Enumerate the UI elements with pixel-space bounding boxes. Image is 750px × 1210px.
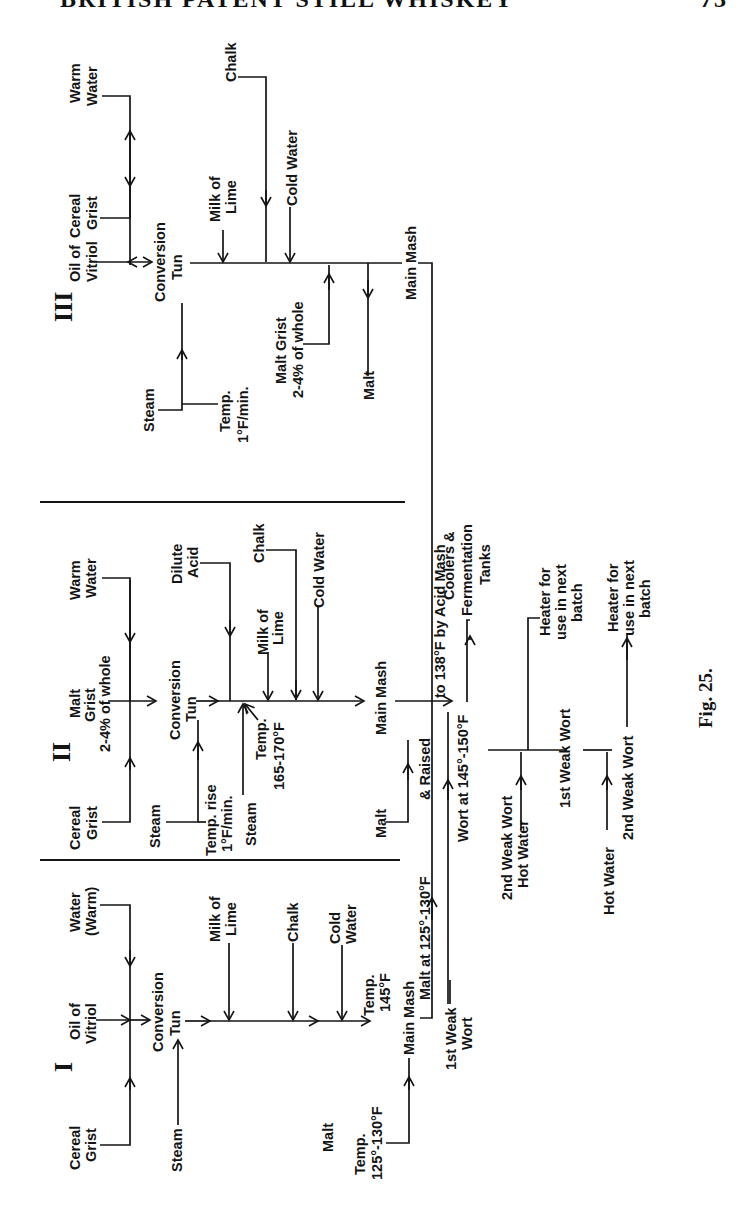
label-oil-of-vitriol: Oil of: [67, 245, 83, 282]
svg-text:Tun: Tun: [183, 697, 199, 723]
svg-text:Tun: Tun: [167, 1011, 183, 1037]
svg-text:Tun: Tun: [169, 255, 185, 281]
label-milk-of-lime: Milk of: [207, 176, 223, 222]
label-warm-water: Warm: [67, 560, 83, 600]
label-malt-grist: Malt: [67, 689, 83, 718]
process-flow-diagram: III Cereal Grist Oil of Vitriol Warm Wat…: [0, 0, 750, 1210]
svg-text:Grist: Grist: [82, 688, 98, 722]
svg-text:Vitriol: Vitriol: [83, 1003, 99, 1044]
label-oil-of-vitriol: Oil of: [67, 1003, 83, 1040]
section-ii: II Cereal Grist Malt Grist 2-4% of whole…: [47, 523, 452, 1004]
svg-text:Fermentation: Fermentation: [459, 524, 475, 616]
cereal-grist-line: [100, 130, 130, 218]
label-hot-water: Hot Water: [601, 847, 617, 915]
steam-line: [158, 303, 182, 410]
label-malt-temp: Temp.: [352, 1133, 368, 1175]
label-second-weak-wort-hot-water: 2nd Weak Wort: [499, 796, 515, 900]
label-temp-165-170: Temp.: [253, 718, 269, 760]
svg-text:Tanks: Tanks: [477, 544, 493, 585]
label-main-mash: Main Mash: [401, 981, 417, 1055]
label-conversion-tun: Conversion: [167, 660, 183, 740]
svg-text:2-4% of whole: 2-4% of whole: [97, 655, 113, 752]
label-warm-water: Warm: [67, 63, 83, 103]
svg-text:1°F/min.: 1°F/min.: [219, 795, 235, 852]
label-cereal-grist: Cereal: [67, 806, 83, 850]
svg-text:Hot Water: Hot Water: [515, 820, 531, 888]
malt-in-line: [386, 1058, 409, 1143]
label-coolers: Coolers &: [441, 531, 457, 600]
svg-text:Lime: Lime: [223, 180, 239, 214]
label-milk-of-lime: Milk of: [255, 609, 271, 655]
label-second-weak-wort: 2nd Weak Wort: [620, 736, 636, 840]
label-dilute-acid: Dilute: [169, 544, 185, 584]
svg-text:(Warm): (Warm): [83, 886, 99, 936]
label-steam: Steam: [169, 1128, 185, 1172]
label-malt: Malt: [373, 809, 389, 838]
label-chalk: Chalk: [251, 523, 267, 563]
label-main-mash: Main Mash: [403, 226, 419, 300]
svg-text:Grist: Grist: [84, 806, 100, 840]
svg-text:Lime: Lime: [223, 902, 239, 936]
label-cereal-grist: Cereal: [67, 194, 83, 238]
label-steam-2: Steam: [243, 802, 259, 846]
label-and-raised: & Raised: [417, 738, 433, 800]
label-malt: Malt: [320, 1123, 336, 1152]
svg-text:165-170°F: 165-170°F: [271, 722, 287, 790]
water-warm-line: [100, 905, 130, 1020]
svg-text:Wort: Wort: [459, 1017, 475, 1050]
label-main-mash: Main Mash: [373, 661, 389, 735]
label-first-weak-wort-in: 1st Weak: [443, 1006, 459, 1070]
label-first-weak-wort: 1st Weak Wort: [557, 708, 573, 808]
label-malt-grist: Malt Grist: [273, 317, 289, 384]
label-wort-at-145-150: Wort at 145°-150°F: [455, 714, 471, 842]
svg-text:use in next: use in next: [553, 564, 569, 640]
malt-in-line: [386, 740, 408, 822]
to-coolers-line: [467, 620, 470, 702]
label-conversion-tun: Conversion: [152, 222, 168, 302]
svg-text:Acid: Acid: [185, 547, 201, 578]
svg-text:Grist: Grist: [83, 1128, 99, 1162]
label-heater-1: Heater for: [537, 567, 553, 636]
label-chalk: Chalk: [223, 42, 239, 82]
label-temp-rate: Temp.: [217, 390, 233, 432]
cereal-grist-line: [100, 1020, 130, 1145]
label-cold-water: Cold: [327, 912, 343, 944]
svg-text:Lime: Lime: [270, 611, 286, 645]
section-i: I Cereal Grist Oil of Vitriol Water (War…: [49, 886, 450, 1180]
label-steam: Steam: [141, 388, 157, 432]
label-cold-water: Cold Water: [284, 130, 300, 206]
label-cereal-grist: Cereal: [67, 1126, 83, 1170]
label-chalk: Chalk: [285, 902, 301, 942]
label-malt-at-125-130: Malt at 125°-130°F: [417, 876, 433, 1000]
figure-caption: Fig. 25.: [695, 668, 716, 728]
svg-text:Water: Water: [84, 66, 100, 106]
svg-text:145°F: 145°F: [377, 973, 393, 1012]
section-numeral-iii: III: [49, 292, 78, 322]
svg-text:Vitriol: Vitriol: [84, 241, 100, 282]
svg-text:batch: batch: [637, 579, 653, 618]
label-milk-of-lime: Milk of: [207, 896, 223, 942]
malt-grist-line: [303, 265, 329, 344]
svg-text:Grist: Grist: [84, 196, 100, 230]
label-water-warm: Water: [67, 892, 83, 932]
svg-text:batch: batch: [569, 583, 585, 622]
downstream-flow: to 138°F by Acid Mash & Raised Malt at 1…: [417, 524, 716, 1070]
warm-water-line: [102, 96, 130, 265]
svg-text:125°-130°F: 125°-130°F: [369, 1106, 385, 1180]
section-numeral-ii: II: [47, 742, 76, 762]
svg-text:Water: Water: [83, 558, 99, 598]
dilute-acid-line: [200, 563, 230, 701]
label-heater-2: Heater for: [605, 563, 621, 632]
svg-text:1°F/min.: 1°F/min.: [235, 386, 251, 443]
svg-text:2-4% of whole: 2-4% of whole: [290, 301, 306, 398]
svg-text:use in next: use in next: [621, 560, 637, 636]
label-steam: Steam: [147, 804, 163, 848]
to-heater-1-line: [528, 618, 540, 750]
label-temp-145: Temp.: [361, 974, 377, 1016]
label-temp-rise: Temp. rise: [203, 785, 219, 856]
section-iii: III Cereal Grist Oil of Vitriol Warm Wat…: [49, 42, 432, 1018]
label-malt: Malt: [361, 371, 377, 400]
svg-text:Water: Water: [343, 904, 359, 944]
label-cold-water: Cold Water: [311, 532, 327, 608]
chalk-line: [238, 77, 266, 262]
